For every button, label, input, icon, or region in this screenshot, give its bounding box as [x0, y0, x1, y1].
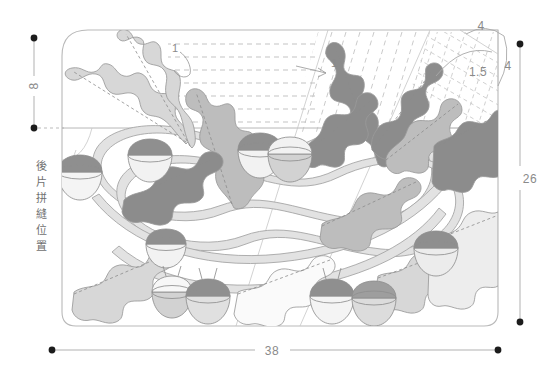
technical-pattern-drawing: 8 26 38 4 4 1.5 1 1: [0, 0, 556, 375]
dimension-endpoint-dot: [49, 347, 56, 354]
seam-note-char: 置: [36, 240, 47, 253]
dimension-label-left: 8: [27, 82, 41, 89]
dimension-label-right: 26: [523, 172, 537, 186]
pattern-canvas: 8 26 38 4 4 1.5 1 1: [0, 0, 556, 375]
dimension-endpoint-dot: [517, 41, 524, 48]
dimension-left-vertical: 8: [27, 35, 41, 132]
dimension-right-vertical: 26: [517, 41, 538, 326]
corner-label-radius: 1.5: [469, 65, 487, 79]
callout-label-left: 1: [172, 42, 178, 54]
seam-note-char: 拼: [36, 191, 47, 205]
corner-label-right: 4: [504, 59, 511, 73]
dimension-label-bottom: 38: [265, 344, 279, 358]
seam-note-char: 後: [36, 159, 47, 173]
corner-label-top: 4: [477, 19, 484, 33]
dimension-endpoint-dot: [495, 347, 502, 354]
dimension-endpoint-dot: [31, 35, 38, 42]
callout-label-right: 1: [331, 57, 337, 69]
seam-note-char: 位: [36, 223, 47, 237]
dimension-endpoint-dot: [517, 319, 524, 326]
dimension-endpoint-dot: [31, 125, 38, 132]
seam-position-note: 後 片 拼 縫 位 置: [36, 159, 47, 253]
seam-note-char: 縫: [36, 207, 47, 221]
seam-note-char: 片: [36, 176, 47, 189]
dimension-bottom-horizontal: 38: [49, 344, 502, 358]
